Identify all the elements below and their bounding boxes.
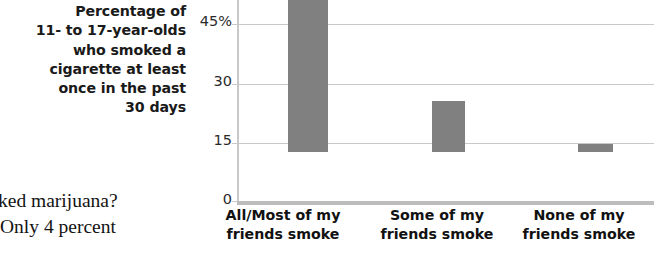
chart-caption: Percentage of 11- to 17-year-olds who sm… — [0, 2, 186, 118]
body-paragraph: ked marijuana? Only 4 percent — [0, 188, 205, 239]
bar-chart: 45% 30 15 0 All/Most of my friends smoke… — [186, 0, 654, 253]
caption-line: who smoked a — [0, 41, 186, 60]
caption-line: 11- to 17-year-olds — [0, 21, 186, 40]
caption-line: once in the past — [0, 79, 186, 98]
caption-line: 30 days — [0, 98, 186, 117]
body-text-line: Only 4 percent — [0, 214, 205, 240]
caption-line: Percentage of — [0, 2, 186, 21]
caption-line: cigarette at least — [0, 60, 186, 79]
y-axis-tick-label: 30 — [186, 73, 232, 89]
y-axis-line — [237, 0, 239, 202]
bar — [578, 144, 613, 152]
bar — [432, 101, 465, 152]
body-text-line: ked marijuana? — [0, 188, 205, 214]
x-axis-line — [237, 201, 654, 205]
y-axis-tick-label: 45% — [186, 13, 232, 29]
bar — [288, 0, 328, 152]
y-axis-tick-label: 0 — [186, 191, 232, 207]
y-axis-tick-label: 15 — [186, 132, 232, 148]
x-axis-category-line: friends smoke — [484, 225, 654, 244]
x-axis-category-line: None of my — [484, 206, 654, 225]
plot-area — [237, 0, 654, 203]
x-axis-category-label: None of my friends smoke — [484, 206, 654, 244]
